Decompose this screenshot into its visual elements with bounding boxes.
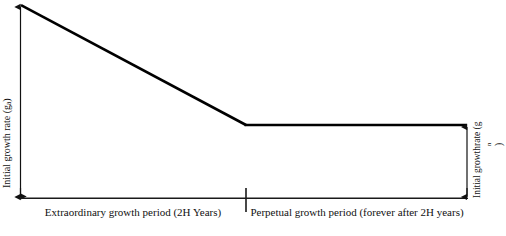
terminal-growth-label-line-two: rate (gn) [472,121,505,146]
y-axis-label-text: Initial growth rate (g [1,105,12,188]
chart-canvas [0,0,506,236]
perpetual-period-label: Perpetual growth period (forever after 2… [247,206,467,218]
terminal-growth-label-line-one: Initial growth [472,146,505,198]
h-model-growth-diagram: Initial growth rate (ga) Initial growth … [0,0,506,236]
declining-growth-line [21,5,246,125]
y-axis-label-suffix: ) [1,98,12,101]
y-axis-label-subscript: a [5,102,13,105]
terminal-growth-label: Initial growth rate (gn) [472,126,505,198]
extraordinary-period-label: Extraordinary growth period (2H Years) [20,206,246,218]
terminal-growth-label-suffix: ) [494,121,505,146]
terminal-growth-label-prefix: rate (g [472,121,483,146]
terminal-growth-label-subscript: n [485,143,492,146]
y-axis-label: Initial growth rate (ga) [1,58,13,188]
